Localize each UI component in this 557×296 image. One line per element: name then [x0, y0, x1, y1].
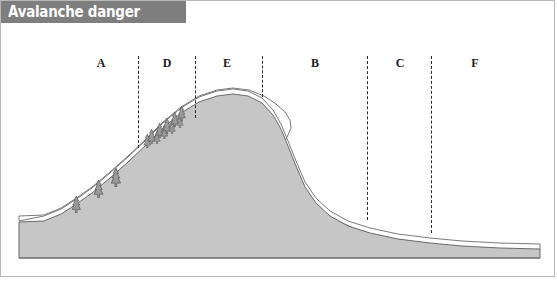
- zone-label-b: B: [303, 57, 327, 69]
- conifer-tree-icon: [71, 196, 82, 213]
- zone-divider-1: [138, 56, 139, 148]
- zone-divider-2: [195, 56, 196, 118]
- avalanche-danger-figure: ADEBCF Avalanche danger: [0, 0, 557, 296]
- zone-label-e: E: [215, 57, 239, 69]
- zone-divider-4: [367, 56, 368, 220]
- zone-label-f: F: [463, 57, 487, 69]
- conifer-tree-icon: [177, 106, 186, 121]
- terrain-cross-section: [0, 0, 557, 296]
- page-title: Avalanche danger: [8, 2, 140, 22]
- zone-divider-3: [262, 56, 263, 97]
- zone-label-c: C: [388, 57, 412, 69]
- title-bar: Avalanche danger: [1, 1, 186, 23]
- zone-divider-5: [431, 56, 432, 233]
- zone-label-d: D: [155, 57, 179, 69]
- conifer-tree-icon: [93, 180, 104, 198]
- zone-label-a: A: [89, 57, 113, 69]
- conifer-tree-icon: [110, 168, 122, 187]
